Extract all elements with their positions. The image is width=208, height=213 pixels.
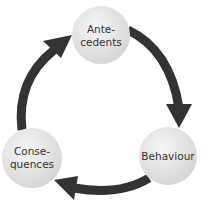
node-consequences: Conse- quences: [2, 128, 62, 188]
abc-cycle-diagram: Ante- cedents Behaviour Conse- quences: [0, 0, 208, 213]
arrow-consequences-to-antecedents: [21, 35, 72, 130]
node-behaviour: Behaviour: [139, 127, 197, 185]
node-behaviour-label: Behaviour: [141, 150, 195, 162]
arrow-behaviour-to-consequences: [54, 176, 149, 200]
node-antecedents: Ante- cedents: [72, 6, 130, 64]
node-consequences-label-line2: quences: [10, 158, 54, 170]
node-consequences-label-line1: Conse-: [14, 145, 50, 157]
arrow-antecedents-to-behaviour: [128, 30, 192, 128]
node-antecedents-label-line1: Ante-: [87, 23, 115, 35]
node-antecedents-label-line2: cedents: [80, 36, 122, 48]
